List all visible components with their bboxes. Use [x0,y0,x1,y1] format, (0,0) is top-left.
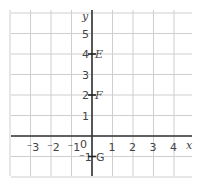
x-tick-label: 3 [150,141,157,154]
coordinate-plane: ⁻3⁻2⁻11234 54321⁻1 EFG y x 0 [0,0,202,186]
y-tick-label: 1 [82,110,89,123]
y-tick-label: 3 [82,69,89,82]
x-tick-label: ⁻3 [27,141,40,154]
x-tick-label: 2 [129,141,136,154]
y-axis-label: y [81,10,89,23]
point-label-e: E [94,48,103,61]
y-tick-label: 2 [82,89,89,102]
x-tick-label: ⁻2 [47,141,60,154]
x-tick-label: 4 [170,141,177,154]
origin-label: 0 [80,138,87,151]
y-tick-label: 5 [82,28,89,41]
point-label-g: G [96,151,105,164]
y-tick-label: 4 [82,48,89,61]
points: EFG [88,48,105,164]
x-axis-label: x [186,139,193,152]
x-tick-label: 1 [109,141,116,154]
point-label-f: F [94,89,103,102]
